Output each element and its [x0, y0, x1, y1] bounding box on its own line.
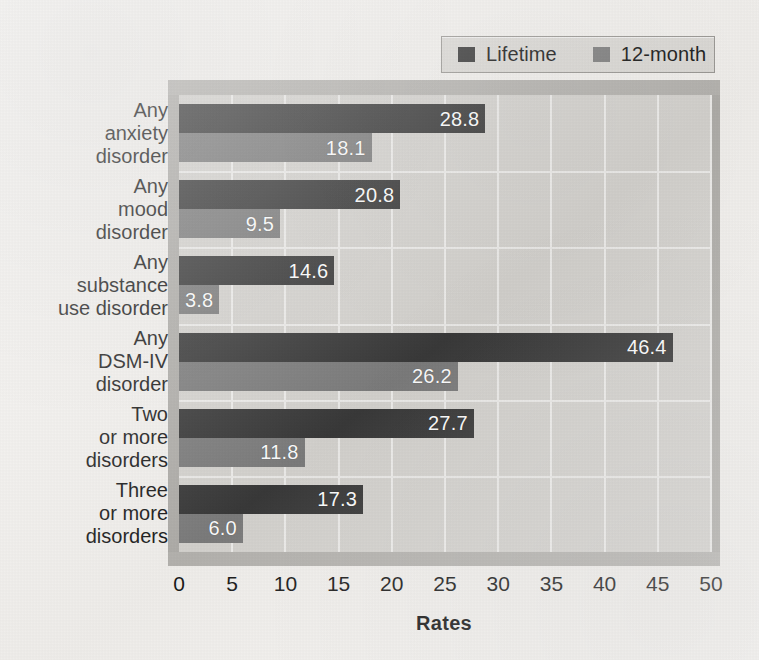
category-separator: [179, 400, 711, 402]
bar-12-month: 11.8: [179, 438, 305, 467]
category-label-line: mood: [0, 198, 168, 221]
plot-right-gutter: [711, 80, 720, 566]
x-tick-5: 5: [212, 572, 252, 596]
bar-12-month: 3.8: [179, 285, 219, 314]
x-tick-15: 15: [319, 572, 359, 596]
x-tick-10: 10: [265, 572, 305, 596]
category-label-line: disorders: [0, 525, 168, 548]
bar-value-label: 3.8: [185, 290, 213, 310]
bar-lifetime: 27.7: [179, 409, 474, 438]
bar-12-month: 26.2: [179, 362, 458, 391]
bar-value-label: 46.4: [627, 337, 667, 357]
x-tick-30: 30: [478, 572, 518, 596]
bar-value-label: 28.8: [440, 109, 480, 129]
x-tick-40: 40: [585, 572, 625, 596]
category-label-line: disorder: [0, 373, 168, 396]
category-label-line: Three: [0, 479, 168, 502]
legend-swatch-12-month: [593, 47, 610, 62]
legend-swatch-lifetime: [458, 47, 475, 62]
x-tick-20: 20: [372, 572, 412, 596]
bar-value-label: 20.8: [355, 185, 395, 205]
x-axis-tick-labels: 05101520253035404550: [168, 572, 720, 602]
bar-value-label: 11.8: [260, 442, 298, 462]
bar-12-month: 18.1: [179, 133, 372, 162]
x-tick-0: 0: [159, 572, 199, 596]
category-label: AnyDSM-IVdisorder: [0, 327, 168, 396]
bar-value-label: 9.5: [246, 214, 274, 234]
category-label: Anyanxietydisorder: [0, 99, 168, 168]
category-label-line: anxiety: [0, 122, 168, 145]
x-tick-50: 50: [691, 572, 731, 596]
category-label-line: or more: [0, 426, 168, 449]
bar-12-month: 9.5: [179, 209, 280, 238]
category-label-line: Two: [0, 403, 168, 426]
bar-value-label: 26.2: [412, 366, 452, 386]
bar-value-label: 18.1: [326, 138, 366, 158]
bar-value-label: 27.7: [428, 413, 468, 433]
category-separator: [179, 247, 711, 249]
category-label-line: or more: [0, 502, 168, 525]
bar-lifetime: 17.3: [179, 485, 363, 514]
plot-top-gutter: [168, 80, 720, 95]
bar-lifetime: 20.8: [179, 180, 400, 209]
category-label-line: Any: [0, 175, 168, 198]
category-label-line: disorder: [0, 221, 168, 244]
category-label-line: substance: [0, 274, 168, 297]
legend-entry-lifetime: Lifetime: [458, 43, 557, 66]
category-separator: [179, 171, 711, 173]
bar-lifetime: 28.8: [179, 104, 485, 133]
x-tick-25: 25: [425, 572, 465, 596]
category-label: Anysubstanceuse disorder: [0, 251, 168, 320]
bar-value-label: 6.0: [208, 518, 236, 538]
category-label-line: Any: [0, 251, 168, 274]
category-label-line: Any: [0, 327, 168, 350]
plot-bottom-gutter: [168, 552, 720, 566]
bar-lifetime: 46.4: [179, 333, 673, 362]
category-label: Threeor moredisorders: [0, 479, 168, 548]
category-label: Anymooddisorder: [0, 175, 168, 244]
legend-label-12-month: 12-month: [621, 43, 706, 66]
plot-left-gutter: [168, 80, 179, 566]
chart-legend: Lifetime 12-month: [441, 36, 715, 73]
category-label-line: use disorder: [0, 297, 168, 320]
category-axis-labels: AnyanxietydisorderAnymooddisorderAnysubs…: [0, 80, 168, 566]
bar-value-label: 14.6: [289, 261, 329, 281]
x-axis-title: Rates: [168, 612, 720, 635]
bar-12-month: 6.0: [179, 514, 243, 543]
x-tick-45: 45: [638, 572, 678, 596]
category-label: Twoor moredisorders: [0, 403, 168, 472]
bar-chart-figure: Lifetime 12-month 28.818.120.89.514.63.8…: [0, 0, 759, 660]
legend-label-lifetime: Lifetime: [486, 43, 557, 66]
category-label-line: disorder: [0, 145, 168, 168]
category-separator: [179, 324, 711, 326]
category-label-line: Any: [0, 99, 168, 122]
plot-inner-canvas: 28.818.120.89.514.63.846.426.227.711.817…: [179, 95, 711, 552]
legend-entry-12-month: 12-month: [593, 43, 706, 66]
bar-value-label: 17.3: [317, 489, 357, 509]
bar-lifetime: 14.6: [179, 256, 334, 285]
category-separator: [179, 476, 711, 478]
x-tick-35: 35: [531, 572, 571, 596]
category-label-line: DSM-IV: [0, 350, 168, 373]
category-label-line: disorders: [0, 449, 168, 472]
plot-area: 28.818.120.89.514.63.846.426.227.711.817…: [168, 80, 720, 566]
